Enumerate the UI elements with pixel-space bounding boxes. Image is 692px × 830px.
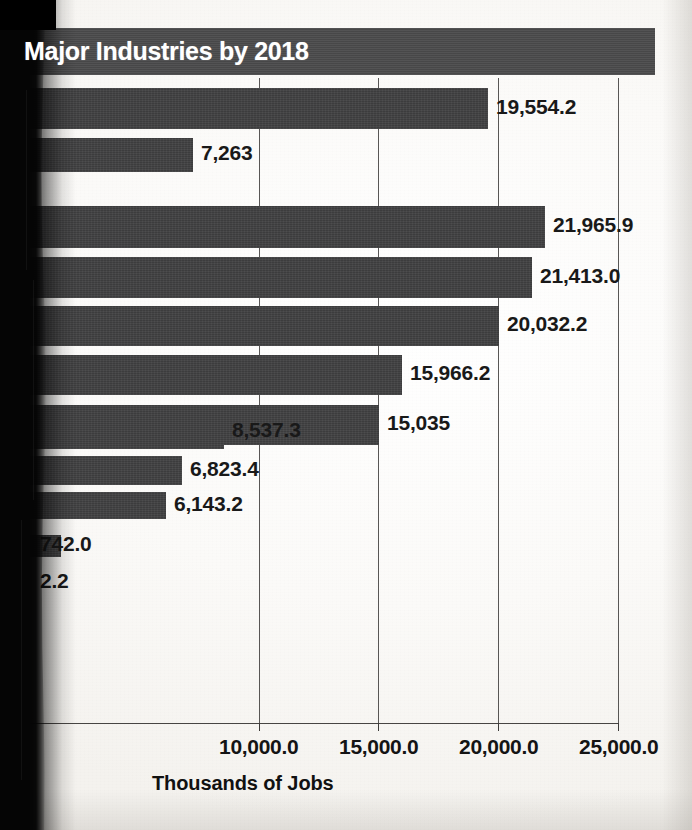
x-tick-label: 0 [14, 735, 25, 759]
bar-value-label: 19,554.2 [496, 95, 576, 119]
axis-tick-250000 [618, 723, 619, 731]
chart-title: Major Industries by 2018 [24, 37, 309, 66]
gridline-150000 [378, 78, 379, 723]
bar-value-label: 15,035 [387, 411, 450, 435]
chart-bar [19, 415, 224, 449]
axis-tick-200000 [498, 723, 499, 731]
chart-title-banner: Major Industries by 2018 [18, 28, 655, 75]
bar-value-label: 21,413.0 [540, 264, 620, 288]
bar-value-label: 7,263 [201, 141, 253, 165]
chart-bar [19, 492, 166, 519]
scanned-chart-page: 010,000.015,000.020,000.025,000.019,554.… [0, 0, 692, 830]
x-axis-title: Thousands of Jobs [152, 772, 334, 795]
gridline-200000 [498, 78, 499, 723]
axis-tick-150000 [378, 723, 379, 731]
axis-tick-100000 [259, 723, 260, 731]
bar-value-label: 15,966.2 [410, 361, 490, 385]
chart-bar [19, 456, 182, 485]
x-tick-label: 20,000.0 [459, 735, 538, 759]
chart-bar [19, 306, 499, 346]
bar-value-label: 21,965.9 [553, 213, 633, 237]
gridline-100000 [259, 78, 260, 723]
chart-bar [19, 355, 402, 395]
gridline-0 [19, 78, 20, 723]
chart-bar [19, 257, 532, 298]
bar-value-label: 20,032.2 [507, 312, 587, 336]
bar-value-label: 6,823.4 [190, 457, 259, 481]
chart-bar [19, 138, 193, 172]
x-tick-label: 15,000.0 [339, 735, 418, 759]
bar-value-label: 8,537.3 [232, 418, 301, 442]
x-tick-label: 25,000.0 [579, 735, 658, 759]
bar-value-label: 6,143.2 [174, 492, 243, 516]
bar-chart-plot-area: 010,000.015,000.020,000.025,000.019,554.… [0, 0, 692, 830]
axis-tick-0 [19, 723, 20, 731]
chart-bar [19, 574, 21, 592]
chart-bar [19, 206, 545, 248]
x-axis-line [19, 723, 618, 724]
bar-value-label: 742.0 [40, 532, 92, 556]
page-corner-black [0, 0, 56, 30]
gridline-250000 [618, 78, 619, 723]
bar-value-label: 2.2 [40, 569, 69, 593]
chart-bar [19, 88, 488, 129]
x-tick-label: 10,000.0 [219, 735, 298, 759]
